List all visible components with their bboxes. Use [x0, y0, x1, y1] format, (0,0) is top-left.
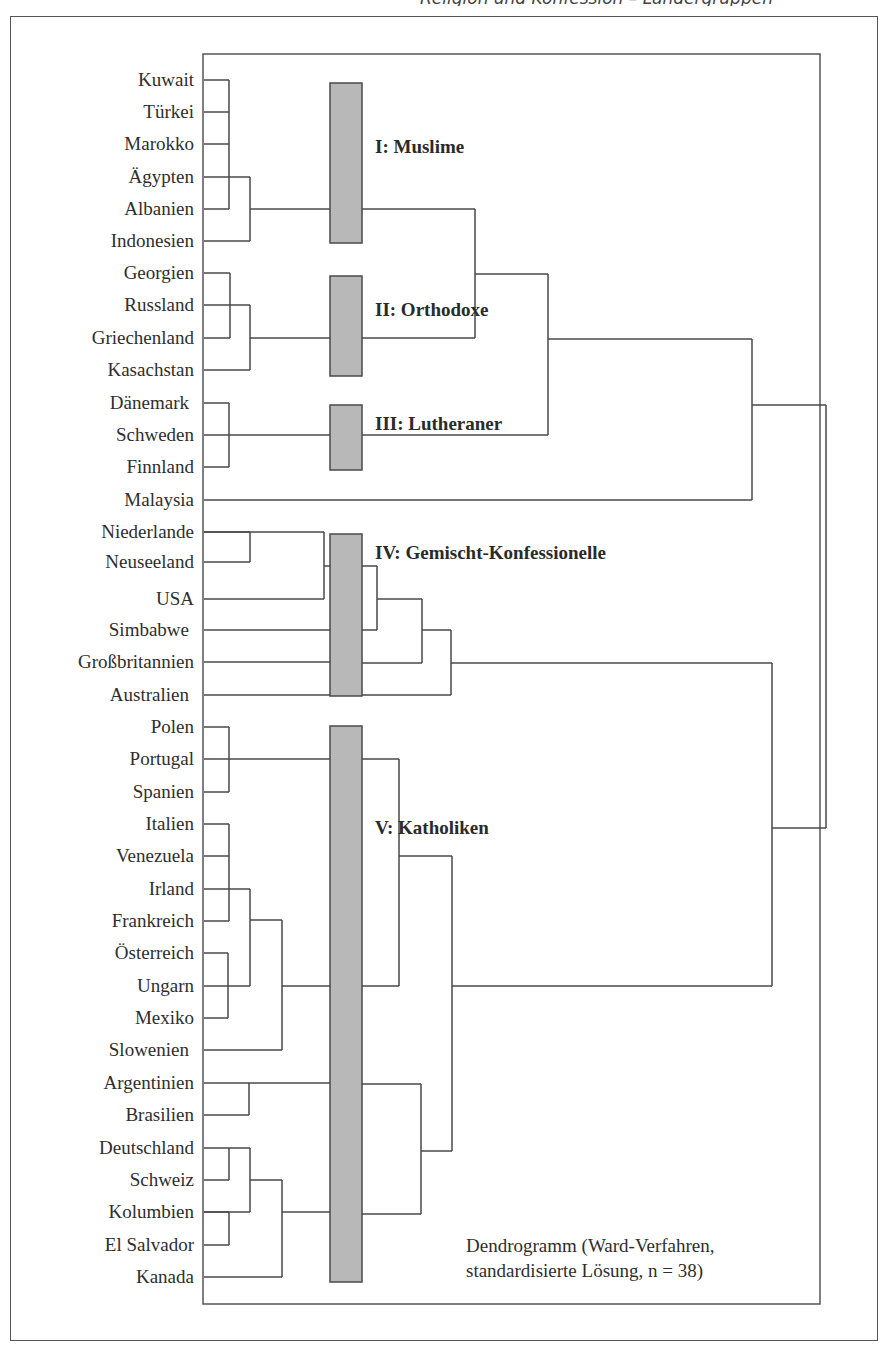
country-label: El Salvador: [105, 1234, 194, 1256]
figure-caption: Dendrogramm (Ward-Verfahren, standardisi…: [466, 1233, 715, 1283]
country-label: Ägypten: [129, 166, 194, 188]
cluster-bar-iii: [330, 405, 362, 470]
country-label: Italien: [145, 813, 194, 835]
country-label: Deutschland: [99, 1137, 194, 1159]
country-label: Simbabwe: [109, 619, 189, 641]
country-label: Argentinien: [104, 1072, 194, 1094]
country-label: Brasilien: [125, 1104, 194, 1126]
cluster-label-orthodoxe: II: Orthodoxe: [375, 299, 488, 321]
country-label: Australien: [110, 684, 189, 706]
country-label: USA: [156, 588, 194, 610]
country-label: Finnland: [126, 456, 194, 478]
cluster-label-muslime: I: Muslime: [375, 136, 464, 158]
country-label: Schweden: [116, 424, 194, 446]
country-label: Ungarn: [137, 975, 194, 997]
country-label: Irland: [149, 878, 194, 900]
cluster-bar-iv: [330, 534, 362, 696]
country-label: Russland: [124, 294, 194, 316]
country-label: Polen: [151, 716, 194, 738]
country-label: Niederlande: [101, 521, 194, 543]
country-label: Dänemark: [110, 392, 189, 414]
cluster-label-lutheraner: III: Lutheraner: [375, 413, 502, 435]
country-label: Neuseeland: [105, 551, 194, 573]
country-label: Kanada: [136, 1266, 194, 1288]
country-label: Venezuela: [116, 845, 194, 867]
country-label: Kolumbien: [109, 1201, 195, 1223]
country-label: Georgien: [124, 262, 194, 284]
cluster-label-gemischt-konfessionelle: IV: Gemischt-Konfessionelle: [375, 542, 606, 564]
caption-line-2: standardisierte Lösung, n = 38): [466, 1258, 715, 1283]
cluster-bar-ii: [330, 276, 362, 376]
country-label: Kasachstan: [107, 359, 194, 381]
inner-frame: [203, 54, 820, 1304]
country-label: Österreich: [115, 942, 194, 964]
country-label: Spanien: [133, 781, 194, 803]
cluster-bar-v: [330, 726, 362, 1282]
country-label: Türkei: [143, 101, 194, 123]
country-label: Schweiz: [130, 1169, 194, 1191]
cluster-bar-i: [330, 83, 362, 243]
country-label: Slowenien: [109, 1039, 189, 1061]
country-label: Griechenland: [92, 327, 194, 349]
country-label: Frankreich: [112, 910, 194, 932]
country-label: Indonesien: [111, 230, 194, 252]
country-label: Malaysia: [124, 489, 194, 511]
country-label: Marokko: [124, 133, 194, 155]
caption-line-1: Dendrogramm (Ward-Verfahren,: [466, 1233, 715, 1258]
cluster-label-katholiken: V: Katholiken: [375, 817, 489, 839]
country-label: Mexiko: [135, 1007, 194, 1029]
country-label: Portugal: [130, 748, 194, 770]
country-label: Kuwait: [138, 69, 194, 91]
country-label: Großbritannien: [78, 651, 194, 673]
country-label: Albanien: [124, 198, 194, 220]
